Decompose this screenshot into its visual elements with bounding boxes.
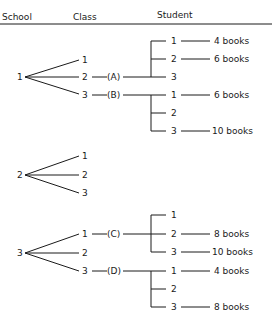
- group-label: (D): [107, 266, 121, 276]
- group-label: (B): [107, 90, 120, 100]
- school-label: 3: [17, 248, 23, 258]
- student-label: 2: [171, 229, 177, 239]
- student-label: 2: [171, 54, 177, 64]
- header-student: Student: [157, 10, 193, 20]
- student-label: 3: [171, 247, 177, 257]
- class-label: 1: [82, 151, 88, 161]
- class-label: 1: [82, 229, 88, 239]
- books-count: 6 books: [214, 90, 250, 100]
- student-label: 2: [171, 284, 177, 294]
- header-school: School: [2, 12, 32, 22]
- student-label: 2: [171, 108, 177, 118]
- class-label: 2: [82, 170, 88, 180]
- books-count: 6 books: [214, 54, 250, 64]
- class-label: 2: [82, 248, 88, 258]
- student-label: 3: [171, 72, 177, 82]
- school-label: 2: [17, 170, 23, 180]
- class-label: 3: [82, 266, 88, 276]
- books-count: 4 books: [214, 266, 250, 276]
- books-count: 10 books: [212, 247, 253, 257]
- student-label: 1: [171, 266, 177, 276]
- books-count: 10 books: [212, 126, 253, 136]
- class-label: 2: [82, 72, 88, 82]
- header-class: Class: [73, 12, 97, 22]
- group-label: (A): [107, 72, 120, 82]
- student-label: 1: [171, 36, 177, 46]
- class-label: 1: [82, 55, 88, 65]
- school-3-tree: 3 1 2 3 (C) 1 2 3 8 books 10 books (D) 1…: [17, 210, 253, 312]
- nested-design-diagram: School Class Student 1 1 2 3 (A) 1 2 3 4…: [0, 0, 276, 325]
- books-count: 4 books: [214, 36, 250, 46]
- student-label: 3: [171, 126, 177, 136]
- school-1-tree: 1 1 2 3 (A) 1 2 3 4 books 6 books (B) 1 …: [17, 36, 253, 136]
- class-label: 3: [82, 90, 88, 100]
- group-label: (C): [107, 229, 120, 239]
- student-label: 1: [171, 210, 177, 220]
- books-count: 8 books: [214, 302, 250, 312]
- books-count: 8 books: [214, 229, 250, 239]
- student-label: 1: [171, 90, 177, 100]
- student-label: 3: [171, 302, 177, 312]
- school-label: 1: [17, 72, 23, 82]
- class-label: 3: [82, 188, 88, 198]
- school-2-tree: 2 1 2 3: [17, 151, 88, 198]
